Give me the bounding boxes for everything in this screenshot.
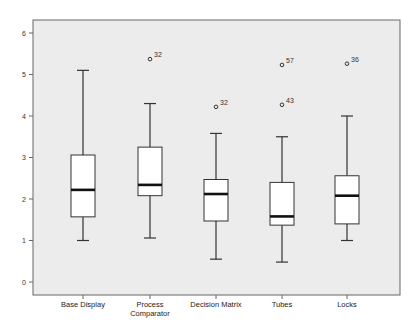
x-category-label: Locks <box>337 300 357 309</box>
y-tick-label: 0 <box>22 279 26 286</box>
y-tick-label: 2 <box>22 196 26 203</box>
x-category-label: Base Display <box>61 300 105 309</box>
iqr-box <box>71 155 95 217</box>
iqr-box <box>335 176 359 224</box>
outlier-label: 32 <box>154 51 162 58</box>
iqr-box <box>204 179 228 221</box>
outlier-label: 32 <box>220 99 228 106</box>
y-tick-label: 5 <box>22 71 26 78</box>
x-category-label: Comparator <box>130 309 170 318</box>
y-axis: 0123456 <box>22 30 33 286</box>
x-category-label: Tubes <box>272 300 293 309</box>
y-tick-label: 6 <box>22 30 26 37</box>
x-axis: Base DisplayProcessComparatorDecision Ma… <box>61 295 357 318</box>
y-tick-label: 4 <box>22 113 26 120</box>
outlier-label: 36 <box>351 56 359 63</box>
boxplot-chart: 0123456 Base DisplayProcessComparatorDec… <box>0 0 419 334</box>
iqr-box <box>270 182 294 225</box>
iqr-box <box>138 147 162 196</box>
outlier-label: 43 <box>286 97 294 104</box>
outlier-label: 57 <box>286 57 294 64</box>
y-tick-label: 1 <box>22 237 26 244</box>
y-tick-label: 3 <box>22 154 26 161</box>
x-category-label: Decision Matrix <box>190 300 242 309</box>
x-category-label: Process <box>136 300 163 309</box>
